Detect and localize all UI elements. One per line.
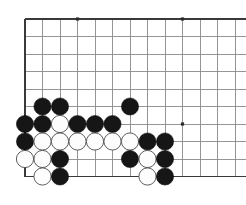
star-point-top-middle <box>181 17 184 20</box>
black-stone-c4r7[interactable] <box>69 115 86 132</box>
white-stone-c8r10[interactable] <box>139 168 156 185</box>
white-stone-c1r9[interactable] <box>16 150 33 167</box>
go-board-canvas[interactable] <box>0 0 246 205</box>
white-stone-c2r9[interactable] <box>34 150 51 167</box>
white-stone-c3r8[interactable] <box>51 133 68 150</box>
black-stone-c6r7[interactable] <box>104 115 121 132</box>
white-stone-c5r8[interactable] <box>86 133 103 150</box>
white-stone-c8r9[interactable] <box>139 150 156 167</box>
black-stone-c9r9[interactable] <box>156 150 173 167</box>
white-stone-c4r8[interactable] <box>69 133 86 150</box>
black-stone-c1r7[interactable] <box>16 115 33 132</box>
black-stone-c3r10[interactable] <box>51 168 68 185</box>
black-stone-c9r10[interactable] <box>156 168 173 185</box>
star-point-middle-right <box>181 122 184 125</box>
black-stone-c7r9[interactable] <box>121 150 138 167</box>
white-stone-c6r8[interactable] <box>104 133 121 150</box>
black-stone-c3r9[interactable] <box>51 150 68 167</box>
black-stone-c2r7[interactable] <box>34 115 51 132</box>
black-stone-c5r7[interactable] <box>86 115 103 132</box>
black-stone-c2r6[interactable] <box>34 98 51 115</box>
black-stone-c3r6[interactable] <box>51 98 68 115</box>
white-stone-c2r8[interactable] <box>34 133 51 150</box>
black-stone-c7r6[interactable] <box>121 98 138 115</box>
white-stone-c7r8[interactable] <box>121 133 138 150</box>
black-stone-c8r8[interactable] <box>139 133 156 150</box>
white-stone-c3r7[interactable] <box>51 115 68 132</box>
black-stone-c9r8[interactable] <box>156 133 173 150</box>
white-stone-c2r10[interactable] <box>34 168 51 185</box>
star-point-top-left <box>76 17 79 20</box>
black-stone-c1r8[interactable] <box>16 133 33 150</box>
go-board-diagram <box>0 0 246 205</box>
